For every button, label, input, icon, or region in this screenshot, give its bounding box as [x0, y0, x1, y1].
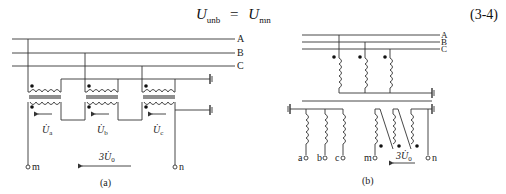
circuit-diagrams: A B C	[0, 0, 506, 194]
terminal-m-a	[26, 165, 30, 169]
open-delta-voltage-a: 3U̇0	[98, 151, 115, 164]
terminal-label-m-a: m	[32, 161, 40, 172]
terminal-n-a	[173, 165, 177, 169]
terminal-n-b	[426, 156, 430, 160]
voltage-label-ua: U̇a	[42, 124, 53, 137]
bus-label-b: B	[237, 47, 244, 58]
primary-coil-b	[365, 58, 368, 88]
ground-symbol-secondary-a	[210, 105, 212, 115]
terminal-label-n-b: n	[432, 152, 437, 163]
ground-symbol-primary-b	[432, 88, 434, 98]
caption-b: (b)	[362, 175, 374, 187]
transformer-c	[142, 84, 175, 109]
transformer-a	[28, 84, 61, 109]
ground-symbol-secondary-delta	[432, 104, 434, 114]
primary-coil-a	[339, 58, 342, 88]
terminal-label-a: a	[298, 152, 303, 163]
open-delta-voltage-b: 3U̇0	[395, 150, 412, 163]
bus-label-c-b: C	[441, 44, 447, 54]
terminal-b-b	[323, 156, 327, 160]
terminal-a-b	[304, 156, 308, 160]
terminal-label-b: b	[317, 152, 322, 163]
primary-coil-c	[390, 58, 393, 88]
bus-label-a: A	[237, 33, 245, 44]
bus-label-c: C	[237, 60, 244, 71]
bus-lines-b	[302, 35, 440, 49]
voltage-label-uc: U̇c	[153, 124, 163, 137]
figure-b: A B C	[288, 30, 448, 187]
terminal-label-m-b: m	[364, 152, 372, 163]
terminal-label-c: c	[335, 152, 340, 163]
terminal-label-n-a: n	[179, 161, 184, 172]
figure-a: A B C	[12, 33, 245, 189]
terminal-m-b	[373, 156, 377, 160]
voltage-label-ub: U̇b	[97, 124, 108, 137]
ground-symbol-secondary-star	[288, 104, 290, 114]
transformer-b	[85, 84, 118, 109]
terminal-c-b	[341, 156, 345, 160]
caption-a: (a)	[100, 177, 111, 189]
ground-symbol-primary-a	[210, 74, 212, 84]
bus-lines-a	[12, 39, 235, 66]
